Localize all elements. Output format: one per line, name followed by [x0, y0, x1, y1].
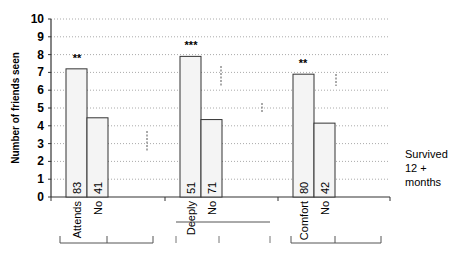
category-label: Attends [71, 201, 83, 239]
category-label: No [206, 201, 218, 215]
y-tick-label: 8 [37, 48, 44, 62]
category-label: Deeply [185, 201, 197, 236]
sample-size-label: 71 [206, 182, 218, 194]
bar-deeply [180, 56, 201, 197]
y-tick-label: 2 [37, 154, 44, 168]
sample-size-label: 42 [319, 182, 331, 194]
y-tick-label: 4 [37, 119, 44, 133]
category-label: Comfort [298, 201, 310, 240]
y-tick-label: 3 [37, 137, 44, 151]
category-label: No [319, 201, 331, 215]
bars: 83Attends41No51Deeply71No80Comfort42No [66, 56, 335, 240]
significance-marker: ** [73, 52, 82, 64]
category-label: No [92, 201, 104, 215]
legend-line-1: Survived [405, 148, 448, 160]
y-tick-label: 10 [31, 12, 45, 26]
bar-chart: 012345678910 83Attends41No51Deeply71No80… [0, 0, 456, 259]
bar-attends [66, 69, 87, 197]
sample-size-label: 83 [71, 182, 83, 194]
y-tick-label: 6 [37, 83, 44, 97]
significance-marker: *** [185, 39, 199, 51]
bar-comfort [293, 74, 314, 197]
legend: Survived 12 + months [405, 148, 448, 188]
y-axis-label: Number of friends seen [10, 52, 21, 164]
significance-marker: ** [299, 57, 308, 69]
sample-size-label: 41 [92, 182, 104, 194]
y-tick-label: 5 [37, 101, 44, 115]
y-tick-label: 9 [37, 30, 44, 44]
sample-size-label: 51 [185, 182, 197, 194]
y-tick-label: 1 [37, 172, 44, 186]
sample-size-label: 80 [298, 182, 310, 194]
y-tick-label: 7 [37, 65, 44, 79]
legend-line-3: months [405, 176, 442, 188]
legend-line-2: 12 + [405, 162, 427, 174]
y-tick-label: 0 [37, 190, 44, 204]
